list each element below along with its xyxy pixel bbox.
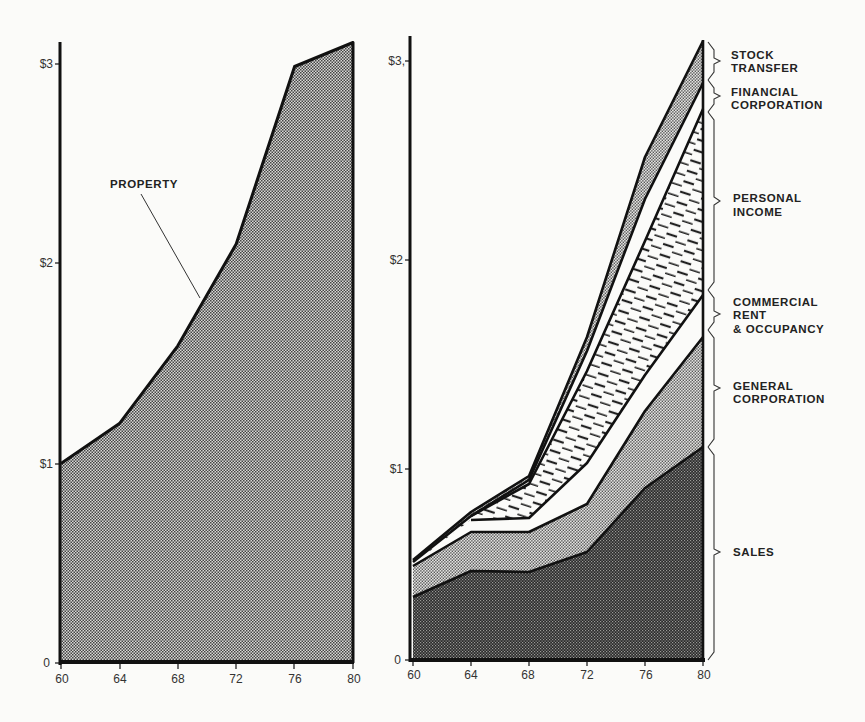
- legend-commercial-rent-line3: & OCCUPANCY: [733, 323, 824, 335]
- left-x-tick-60: 60: [55, 672, 69, 686]
- property-area: [61, 43, 353, 664]
- chart-canvas: 0 $1 $2 $3 60 64 68 72 76 80 PROPERTY: [0, 0, 865, 722]
- legend-financial-corporation-line1: FINANCIAL: [731, 86, 798, 98]
- legend-stock-transfer-line1: STOCK: [731, 49, 774, 61]
- right-x-tick-64: 64: [464, 668, 478, 682]
- left-y-tick-0: 0: [43, 656, 50, 670]
- legend-commercial-rent-line2: RENT: [733, 309, 767, 321]
- right-x-tick-68: 68: [521, 668, 535, 682]
- left-x-tick-64: 64: [113, 672, 127, 686]
- legend-stock-transfer-line2: TRANSFER: [731, 62, 799, 74]
- right-y-tick-2: $2: [390, 253, 404, 267]
- right-y-tick-1: $1: [390, 462, 404, 476]
- right-x-tick-72: 72: [580, 668, 594, 682]
- left-x-tick-68: 68: [171, 672, 185, 686]
- left-x-tick-72: 72: [229, 672, 243, 686]
- legend-general-corporation-line1: GENERAL: [733, 380, 793, 392]
- legend-personal-income-line2: INCOME: [733, 206, 783, 218]
- property-leader-line: [141, 194, 200, 298]
- legend-brackets: [708, 42, 720, 660]
- left-chart-property: 0 $1 $2 $3 60 64 68 72 76 80 PROPERTY: [40, 42, 361, 686]
- right-x-tick-76: 76: [639, 668, 653, 682]
- legend-personal-income-line1: PERSONAL: [733, 192, 802, 204]
- property-annotation: PROPERTY: [110, 178, 178, 190]
- left-x-tick-80: 80: [347, 672, 361, 686]
- left-y-tick-2: $2: [40, 256, 54, 270]
- left-x-tick-76: 76: [288, 672, 302, 686]
- right-x-tick-60: 60: [407, 668, 421, 682]
- left-y-tick-1: $1: [40, 457, 54, 471]
- right-y-tick-0: 0: [394, 653, 401, 667]
- legend-general-corporation-line2: CORPORATION: [733, 393, 825, 405]
- legend-financial-corporation-line2: CORPORATION: [731, 99, 823, 111]
- right-chart-stacked: 0 $1 $2 $3, 60 64 68 72 76 80: [388, 36, 825, 682]
- right-y-tick-3: $3,: [388, 54, 405, 68]
- left-y-tick-3: $3: [40, 57, 54, 71]
- legend-commercial-rent-line1: COMMERCIAL: [733, 296, 818, 308]
- legend-sales: SALES: [733, 546, 774, 558]
- right-x-tick-80: 80: [697, 668, 711, 682]
